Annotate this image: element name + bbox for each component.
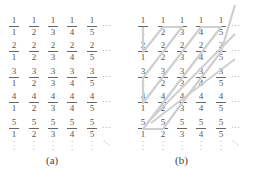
denominator: 3	[46, 27, 60, 37]
column-ellipsis: ···	[214, 139, 228, 151]
panel-caption: (a)	[46, 154, 58, 166]
row-ellipsis: ···	[102, 21, 112, 30]
row-ellipsis: ···	[102, 97, 112, 106]
row-ellipsis: ···	[102, 123, 112, 132]
column-ellipsis: ···	[65, 139, 79, 151]
fraction-3-over-5: 35	[214, 67, 228, 88]
fraction-3-over-2: 32	[27, 67, 41, 88]
numerator: 1	[46, 16, 60, 26]
numerator: 1	[85, 16, 99, 26]
numerator: 4	[65, 92, 79, 102]
denominator: 3	[46, 78, 60, 88]
fraction-3-over-5: 35	[85, 67, 99, 88]
numerator: 1	[65, 16, 79, 26]
panel-caption: (b)	[175, 154, 188, 166]
fraction-2-over-1: 21	[136, 41, 150, 62]
fraction-4-over-2: 42	[156, 92, 170, 113]
denominator: 4	[65, 103, 79, 113]
fraction-2-over-5: 25	[85, 41, 99, 62]
denominator: 5	[85, 103, 99, 113]
panel-a-fraction-grid: 1112131415···2122232425···3132333435···4…	[0, 0, 129, 186]
denominator: 4	[194, 52, 208, 62]
denominator: 1	[136, 52, 150, 62]
column-ellipsis: ···	[7, 139, 21, 151]
numerator: 1	[194, 16, 208, 26]
column-ellipsis: ···	[27, 139, 41, 151]
fraction-4-over-3: 43	[175, 92, 189, 113]
denominator: 4	[65, 78, 79, 88]
numerator: 4	[214, 92, 228, 102]
denominator: 4	[65, 27, 79, 37]
numerator: 5	[7, 118, 21, 128]
column-ellipsis: ···	[136, 139, 150, 151]
column-ellipsis: ···	[156, 139, 170, 151]
fraction-1-over-5: 15	[85, 16, 99, 37]
diagonal-ellipsis: ···	[229, 136, 242, 149]
fraction-1-over-4: 14	[65, 16, 79, 37]
numerator: 2	[214, 41, 228, 51]
denominator: 5	[214, 78, 228, 88]
denominator: 1	[136, 103, 150, 113]
numerator: 2	[46, 41, 60, 51]
numerator: 4	[136, 92, 150, 102]
fraction-1-over-2: 12	[156, 16, 170, 37]
numerator: 1	[175, 16, 189, 26]
fraction-2-over-1: 21	[7, 41, 21, 62]
numerator: 3	[136, 67, 150, 77]
numerator: 1	[7, 16, 21, 26]
row-ellipsis: ···	[231, 72, 241, 81]
numerator: 2	[85, 41, 99, 51]
row-ellipsis: ···	[102, 46, 112, 55]
numerator: 3	[27, 67, 41, 77]
denominator: 2	[27, 103, 41, 113]
numerator: 2	[7, 41, 21, 51]
denominator: 3	[175, 103, 189, 113]
numerator: 5	[46, 118, 60, 128]
fraction-3-over-1: 31	[7, 67, 21, 88]
denominator: 4	[194, 78, 208, 88]
fraction-2-over-2: 22	[156, 41, 170, 62]
denominator: 2	[156, 52, 170, 62]
column-ellipsis: ···	[175, 139, 189, 151]
numerator: 3	[46, 67, 60, 77]
fraction-2-over-2: 22	[27, 41, 41, 62]
denominator: 1	[136, 27, 150, 37]
numerator: 1	[156, 16, 170, 26]
fraction-1-over-5: 15	[214, 16, 228, 37]
denominator: 5	[214, 52, 228, 62]
denominator: 2	[156, 103, 170, 113]
fraction-3-over-3: 33	[175, 67, 189, 88]
fraction-4-over-5: 45	[214, 92, 228, 113]
fraction-3-over-4: 34	[194, 67, 208, 88]
fraction-2-over-3: 23	[46, 41, 60, 62]
numerator: 4	[194, 92, 208, 102]
numerator: 4	[85, 92, 99, 102]
denominator: 2	[27, 78, 41, 88]
row-ellipsis: ···	[102, 72, 112, 81]
panel-b-diagonal-enumeration: 1112131415···2122232425···3132333435···4…	[129, 0, 258, 186]
numerator: 2	[194, 41, 208, 51]
denominator: 5	[214, 103, 228, 113]
numerator: 1	[27, 16, 41, 26]
fraction-2-over-4: 24	[194, 41, 208, 62]
numerator: 1	[214, 16, 228, 26]
diagonal-ellipsis: ···	[100, 136, 113, 149]
denominator: 1	[7, 27, 21, 37]
fraction-2-over-3: 23	[175, 41, 189, 62]
fraction-4-over-2: 42	[27, 92, 41, 113]
numerator: 4	[175, 92, 189, 102]
numerator: 5	[175, 118, 189, 128]
numerator: 5	[214, 118, 228, 128]
fraction-4-over-4: 44	[65, 92, 79, 113]
fraction-4-over-1: 41	[7, 92, 21, 113]
denominator: 2	[27, 52, 41, 62]
fraction-4-over-4: 44	[194, 92, 208, 113]
fraction-1-over-3: 13	[175, 16, 189, 37]
fraction-3-over-2: 32	[156, 67, 170, 88]
numerator: 5	[65, 118, 79, 128]
denominator: 4	[194, 27, 208, 37]
denominator: 5	[85, 52, 99, 62]
denominator: 1	[7, 52, 21, 62]
numerator: 4	[46, 92, 60, 102]
numerator: 3	[7, 67, 21, 77]
